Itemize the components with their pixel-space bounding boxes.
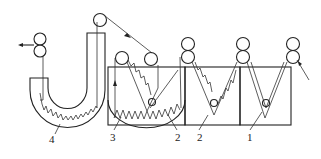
squeeze-roller-pair-1 xyxy=(182,38,195,64)
label-3: 3 xyxy=(110,131,116,143)
guide-roller xyxy=(145,53,158,66)
immersion-roller xyxy=(211,100,218,107)
tank-1-internals xyxy=(247,62,287,118)
fabric-path-top xyxy=(105,16,152,53)
label-2b: 2 xyxy=(197,131,203,143)
tank-2-internals xyxy=(192,62,237,115)
label-4: 4 xyxy=(49,133,55,145)
tank-3-internals xyxy=(108,52,185,128)
exit-roller-pair xyxy=(34,33,46,57)
entry-roller-pair xyxy=(287,38,300,64)
process-diagram: 4 3 2 2 1 xyxy=(0,0,321,159)
entry-arrow-icon xyxy=(298,61,302,66)
immersion-roller xyxy=(263,100,270,107)
top-guide-roller xyxy=(94,14,107,27)
tank-2 xyxy=(185,67,240,125)
u-tube-steamer xyxy=(30,22,105,128)
squeeze-roller-pair-2 xyxy=(237,38,250,64)
label-2a: 2 xyxy=(175,131,181,143)
leader-1 xyxy=(250,112,262,130)
guide-roller xyxy=(116,52,129,65)
exit-arrow-icon xyxy=(18,43,34,47)
label-1: 1 xyxy=(247,131,253,143)
leader-2b xyxy=(199,115,208,130)
